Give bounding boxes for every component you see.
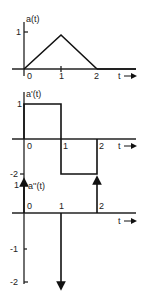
x-tick-label-0: 0 (27, 141, 32, 151)
x-tick-label-0: 0 (27, 71, 32, 81)
y-tick-label-neg2: -2 (10, 277, 18, 287)
x-axis-label: t (118, 141, 121, 151)
x-axis-label: t (118, 216, 121, 226)
x-tick-label-1: 1 (59, 71, 64, 81)
x-tick-label-2: 2 (94, 71, 99, 81)
x-tick-label-0: 0 (27, 201, 32, 211)
y-tick-label-1: 1 (14, 180, 19, 190)
y-tick-label-neg1: -1 (10, 244, 18, 254)
y-tick-label-neg2: -2 (10, 169, 18, 179)
y-tick-label-1: 1 (17, 99, 22, 109)
graph-a: a(t) 1 0 1 2 t (12, 14, 136, 81)
x-tick-label-2: 2 (99, 141, 104, 151)
y-label: a(t) (26, 14, 40, 24)
y-tick-label-1: 1 (16, 27, 21, 37)
x-tick-label-2: 2 (99, 201, 104, 211)
x-tick-label-1: 1 (59, 201, 64, 211)
graph-a-double-prime: a''(t) 1 -1 -2 0 1 2 t (10, 180, 136, 287)
y-label: a'(t) (26, 89, 41, 99)
x-axis-label: t (118, 71, 121, 81)
y-label: a''(t) (28, 181, 45, 191)
derivative-diagram: a(t) 1 0 1 2 t a'(t) 1 -2 0 1 2 t a''(t)… (0, 0, 144, 294)
triangle-signal (24, 35, 97, 69)
x-tick-label-1: 1 (63, 141, 68, 151)
